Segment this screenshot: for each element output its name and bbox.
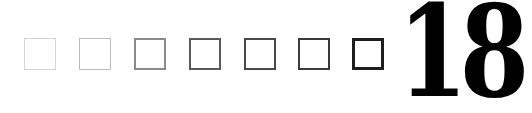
square-1 <box>24 38 56 70</box>
square-7 <box>352 38 384 70</box>
square-3 <box>134 38 166 70</box>
large-number: 18 <box>398 0 488 113</box>
square-5 <box>244 38 276 70</box>
square-6 <box>298 38 330 70</box>
square-4 <box>189 38 221 70</box>
square-2 <box>79 38 111 70</box>
